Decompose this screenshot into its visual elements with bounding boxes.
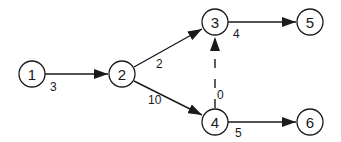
edge-2-3: [134, 29, 202, 67]
edge-label-2-3: 2: [156, 57, 163, 71]
node-label: 2: [118, 66, 126, 83]
node-label: 5: [306, 14, 314, 31]
edge-label-1-2: 3: [50, 80, 57, 94]
node-1: 1: [19, 61, 45, 87]
node-4: 4: [202, 109, 228, 135]
node-2: 2: [109, 61, 135, 87]
edge-label-3-5: 4: [233, 27, 240, 41]
node-label: 3: [211, 14, 219, 31]
node-label: 4: [211, 114, 219, 131]
edge-2-4: [134, 81, 202, 115]
node-5: 5: [297, 9, 323, 35]
node-3: 3: [202, 9, 228, 35]
network-diagram: 3 2 10 4 0 5 1 2 3 4 5 6: [0, 0, 341, 142]
node-label: 1: [28, 66, 36, 83]
edge-label-4-6: 5: [235, 126, 242, 140]
edge-label-4-3: 0: [217, 88, 224, 102]
edge-label-2-4: 10: [148, 93, 162, 107]
node-6: 6: [297, 109, 323, 135]
node-label: 6: [306, 114, 314, 131]
